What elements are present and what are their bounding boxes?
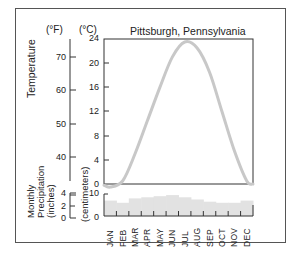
centimeters-axis-title: (centimeters)	[80, 167, 90, 222]
cm-tick-label: 0	[94, 212, 99, 222]
fahrenheit-unit-label: (°F)	[46, 24, 63, 35]
month-label: OCT	[217, 228, 227, 247]
celsius-ticks	[104, 63, 109, 160]
fahrenheit-tick-label: 40	[56, 152, 66, 162]
precip-bar	[179, 197, 192, 216]
month-label: SEP	[205, 229, 215, 247]
month-label: APR	[142, 229, 152, 247]
month-label: JUN	[167, 230, 177, 247]
celsius-tick-label: 16	[89, 82, 99, 92]
fahrenheit-ticks	[70, 57, 76, 157]
celsius-tick-label: 20	[89, 58, 99, 68]
precip-bar	[241, 201, 254, 216]
month-label: FEB	[118, 230, 128, 247]
precip-axis-title-line3: (inches)	[46, 184, 56, 218]
precip-bar	[216, 203, 229, 216]
month-label: JUL	[180, 231, 190, 247]
temperature-plot-box	[104, 39, 253, 184]
month-label: AUG	[192, 228, 202, 247]
fahrenheit-tick-label: 60	[56, 85, 66, 95]
month-label: DEC	[242, 228, 252, 247]
inches-tick-label: 0	[61, 213, 66, 223]
inches-tick-label: 2	[61, 201, 66, 211]
fahrenheit-tick-label: 50	[56, 119, 66, 129]
precip-bar	[141, 197, 154, 216]
precip-bar	[228, 203, 241, 216]
celsius-tick-label: 12	[89, 106, 99, 116]
precip-bar	[166, 195, 179, 216]
fahrenheit-tick-label: 70	[56, 52, 66, 62]
precip-bar	[104, 201, 117, 216]
precip-bar	[154, 196, 167, 216]
temperature-axis-title: Temperature	[26, 39, 37, 98]
precip-bar	[203, 202, 216, 216]
temperature-curve	[104, 42, 253, 188]
chart-title: Pittsburgh, Pennsylvania	[130, 25, 246, 37]
cm-tick-label: 10	[89, 188, 99, 198]
precip-bar	[191, 200, 204, 217]
celsius-tick-label: 24	[89, 33, 99, 43]
month-label: NOV	[229, 228, 239, 247]
month-label: JAN	[105, 230, 115, 247]
celsius-tick-label: 8	[94, 131, 99, 141]
chart-graphics	[0, 0, 296, 265]
month-label: MAR	[130, 227, 140, 247]
precip-bar	[116, 203, 129, 216]
month-label: MAY	[155, 228, 165, 247]
precip-bar	[129, 198, 142, 216]
inches-tick-label: 4	[61, 188, 66, 198]
celsius-tick-label: 4	[94, 155, 99, 165]
